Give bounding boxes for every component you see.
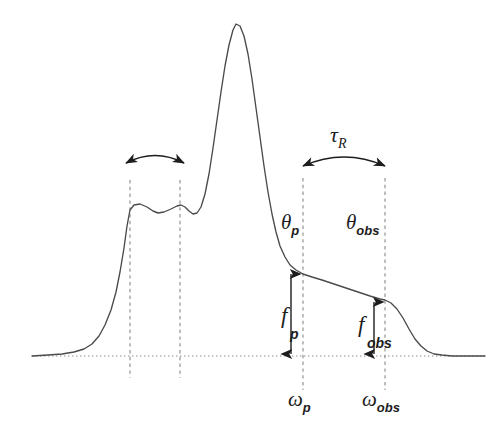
label-tau-r-base: τ: [330, 122, 338, 147]
label-omega-p: ωp: [288, 389, 311, 410]
label-f-p: fp: [281, 304, 290, 341]
label-omega-obs-sub: obs: [377, 400, 400, 415]
label-omega-obs-base: ω: [362, 387, 377, 411]
figure-canvas: [0, 0, 503, 436]
label-omega-p-sub: p: [303, 400, 311, 415]
label-theta-obs: θobs: [346, 212, 379, 233]
label-omega-p-base: ω: [288, 387, 303, 411]
spectrum-figure: τR θp θobs ωp ωobs fp fobs: [0, 0, 503, 436]
label-f-obs-base: f: [358, 313, 383, 336]
spectrum-curve: [32, 24, 485, 356]
label-theta-p-sub: p: [291, 223, 299, 238]
label-theta-p-base: θ: [281, 210, 291, 234]
label-omega-obs: ωobs: [362, 389, 400, 410]
label-f-obs: fobs: [358, 313, 383, 350]
label-tau-r-sub: R: [338, 136, 347, 151]
left-shoulder-span-arrow: [126, 156, 184, 164]
label-theta-p: θp: [281, 212, 299, 233]
tau-r-span-arrow: [303, 157, 385, 166]
label-f-obs-sub: obs: [367, 336, 392, 350]
label-theta-obs-base: θ: [346, 210, 356, 234]
label-f-p-base: f: [281, 304, 290, 327]
label-tau-r: τR: [330, 124, 346, 146]
label-theta-obs-sub: obs: [356, 223, 379, 238]
label-f-p-sub: p: [290, 327, 299, 341]
